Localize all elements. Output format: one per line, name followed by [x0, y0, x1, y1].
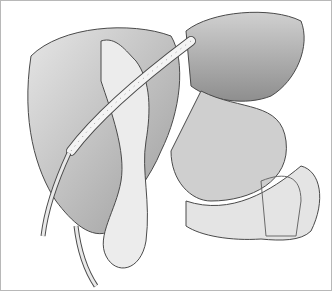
illustration-frame — [0, 0, 332, 291]
lower-tube — [76, 226, 96, 286]
liver-illustration — [1, 1, 331, 290]
